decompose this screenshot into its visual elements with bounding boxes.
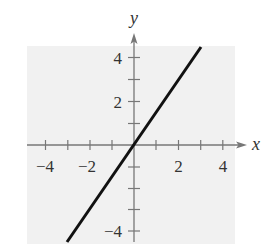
x-tick-label-neg2: −2 [78, 157, 96, 176]
x-tick-label-2: 2 [174, 157, 183, 176]
y-tick-label-neg4: −4 [104, 222, 123, 241]
y-axis-label: y [128, 8, 138, 28]
x-tick-label-4: 4 [219, 157, 228, 176]
y-tick-label-2: 2 [114, 93, 123, 112]
y-tick-label-4: 4 [114, 49, 123, 68]
x-axis-label: x [251, 134, 260, 154]
x-tick-label-neg4: −4 [36, 157, 55, 176]
chart: −4 −2 2 4 4 2 −4 x y [0, 0, 271, 245]
